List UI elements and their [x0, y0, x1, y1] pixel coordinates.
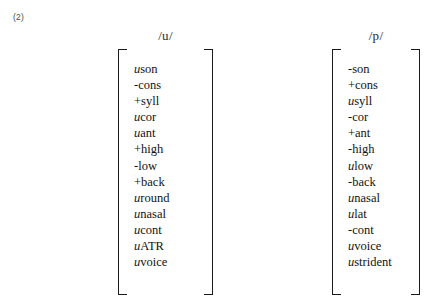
feature-row: -son — [348, 61, 392, 77]
feature-value: + — [348, 126, 355, 140]
feature-row: ulat — [348, 206, 392, 222]
feature-row: uvoice — [134, 254, 169, 270]
feature-name: ant — [140, 126, 155, 140]
feature-row: -low — [134, 158, 169, 174]
feature-row: uATR — [134, 238, 169, 254]
feature-row: unasal — [134, 206, 169, 222]
feature-row: +cons — [348, 77, 392, 93]
feature-name: nasal — [140, 207, 166, 221]
feature-row: -high — [348, 141, 392, 157]
feature-row: -cor — [348, 109, 392, 125]
feature-row: ucor — [134, 109, 169, 125]
feature-matrix-p-header: /p/ — [332, 26, 420, 46]
feature-row: uvoice — [348, 238, 392, 254]
feature-row: uant — [134, 125, 169, 141]
feature-name: cor — [352, 110, 368, 124]
feature-name: back — [352, 175, 376, 189]
example-number-label: (2) — [13, 12, 24, 22]
feature-name: cont — [352, 223, 374, 237]
feature-value: + — [134, 94, 141, 108]
feature-row: unasal — [348, 190, 392, 206]
feature-row: uson — [134, 61, 169, 77]
feature-name: cont — [140, 223, 162, 237]
feature-name: ATR — [140, 239, 164, 253]
feature-matrix-u-body: uson-cons+syllucoruant+high-low+backurou… — [118, 49, 213, 295]
feature-value: + — [134, 175, 141, 189]
feature-name: cor — [140, 110, 156, 124]
feature-name: back — [141, 175, 165, 189]
feature-list-u: uson-cons+syllucoruant+high-low+backurou… — [134, 61, 169, 270]
feature-row: +syll — [134, 93, 169, 109]
feature-value: + — [348, 78, 355, 92]
feature-name: voice — [140, 255, 167, 269]
feature-name: voice — [354, 239, 381, 253]
left-bracket-icon — [332, 49, 341, 295]
left-bracket-icon — [118, 49, 127, 295]
feature-row: ulow — [348, 158, 392, 174]
feature-row: -back — [348, 174, 392, 190]
feature-row: +high — [134, 141, 169, 157]
feature-name: syll — [141, 94, 159, 108]
feature-name: cons — [355, 78, 378, 92]
feature-matrix-u: /u/ uson-cons+syllucoruant+high-low+back… — [118, 26, 213, 295]
feature-name: high — [141, 142, 163, 156]
feature-row: ucont — [134, 222, 169, 238]
feature-name: round — [140, 191, 169, 205]
feature-value: + — [134, 142, 141, 156]
feature-row: -cons — [134, 77, 169, 93]
feature-name: syll — [354, 94, 372, 108]
feature-name: low — [354, 159, 373, 173]
feature-name: son — [352, 62, 369, 76]
feature-name: lat — [354, 207, 367, 221]
feature-name: low — [138, 159, 157, 173]
feature-row: +back — [134, 174, 169, 190]
right-bracket-icon — [204, 49, 213, 295]
feature-row: usyll — [348, 93, 392, 109]
feature-name: ant — [355, 126, 370, 140]
feature-name: high — [352, 142, 374, 156]
feature-row: -cont — [348, 222, 392, 238]
feature-name: strident — [354, 255, 392, 269]
feature-name: nasal — [354, 191, 380, 205]
feature-matrix-p: /p/ -son+consusyll-cor+ant-highulow-back… — [332, 26, 420, 295]
feature-row: ustrident — [348, 254, 392, 270]
feature-list-p: -son+consusyll-cor+ant-highulow-backunas… — [348, 61, 392, 270]
right-bracket-icon — [411, 49, 420, 295]
feature-name: son — [140, 62, 157, 76]
feature-row: +ant — [348, 125, 392, 141]
feature-matrix-u-header: /u/ — [118, 26, 213, 46]
feature-matrix-p-body: -son+consusyll-cor+ant-highulow-backunas… — [332, 49, 420, 295]
feature-row: uround — [134, 190, 169, 206]
feature-name: cons — [138, 78, 161, 92]
